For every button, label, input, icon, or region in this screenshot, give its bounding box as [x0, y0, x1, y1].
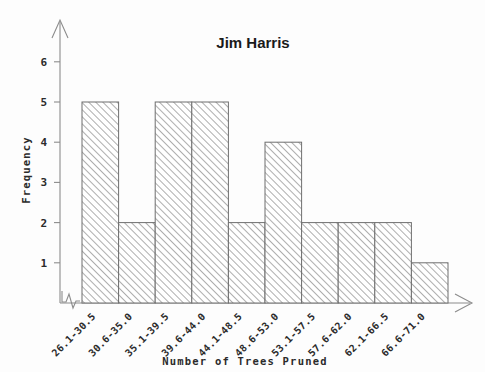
axis-break-icon: [62, 291, 80, 308]
y-tick-label: 1: [40, 257, 47, 270]
y-tick-group: 123456: [40, 56, 60, 270]
histogram-bar: [411, 263, 448, 303]
histogram-chart: Jim Harris 123456 Frequency 26.1-30.530.…: [0, 0, 485, 372]
y-tick-label: 4: [40, 136, 47, 149]
histogram-bar: [375, 223, 412, 303]
histogram-bar: [338, 223, 375, 303]
histogram-bar: [228, 223, 265, 303]
y-tick-label: 5: [40, 96, 47, 109]
y-axis: [52, 20, 68, 303]
bar-group: [82, 102, 448, 303]
histogram-bar: [155, 102, 192, 303]
chart-canvas: Jim Harris 123456 Frequency 26.1-30.530.…: [0, 0, 485, 372]
y-tick-label: 2: [40, 217, 47, 230]
histogram-bar: [119, 223, 156, 303]
y-tick-label: 6: [40, 56, 47, 69]
histogram-bar: [302, 223, 339, 303]
chart-title: Jim Harris: [216, 34, 289, 51]
y-tick-label: 3: [40, 176, 47, 189]
histogram-bar: [82, 102, 119, 303]
x-tick-group: 26.1-30.530.6-35.035.1-39.539.6-44.044.1…: [50, 311, 427, 359]
histogram-bar: [192, 102, 229, 303]
x-axis-label: Number of Trees Pruned: [162, 355, 327, 367]
y-axis-label: Frequency: [20, 136, 32, 204]
histogram-bar: [265, 142, 302, 303]
